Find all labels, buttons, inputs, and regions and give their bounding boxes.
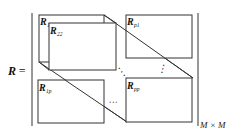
svg-text:pp: pp	[133, 86, 140, 92]
svg-text:R: R	[38, 82, 46, 93]
diagonal-ellipsis: ⋱	[116, 66, 126, 77]
svg-text:R: R	[39, 16, 47, 27]
svg-text:R: R	[126, 80, 134, 91]
horizontal-ellipsis: ⋯	[108, 97, 117, 107]
block-matrix-diagram: R = R 11 R 22 R p1 R 1p R pp ⋮ ⋯	[0, 0, 245, 135]
block-r22: R 22	[39, 23, 116, 70]
depth-edge-top	[104, 15, 116, 23]
svg-text:1p: 1p	[46, 88, 52, 94]
svg-text:R: R	[126, 16, 134, 27]
dimension-label: M × M	[199, 120, 226, 130]
svg-text:p1: p1	[133, 22, 140, 28]
block-r1p: R 1p	[38, 80, 104, 123]
block-rp1: R p1	[126, 15, 192, 58]
equals-sign: =	[18, 64, 26, 78]
matrix-symbol: R	[7, 64, 16, 78]
svg-text:R: R	[49, 25, 57, 36]
vertical-ellipsis: ⋮	[157, 63, 167, 74]
block-rpp: R pp	[126, 78, 192, 122]
svg-text:22: 22	[57, 31, 63, 37]
